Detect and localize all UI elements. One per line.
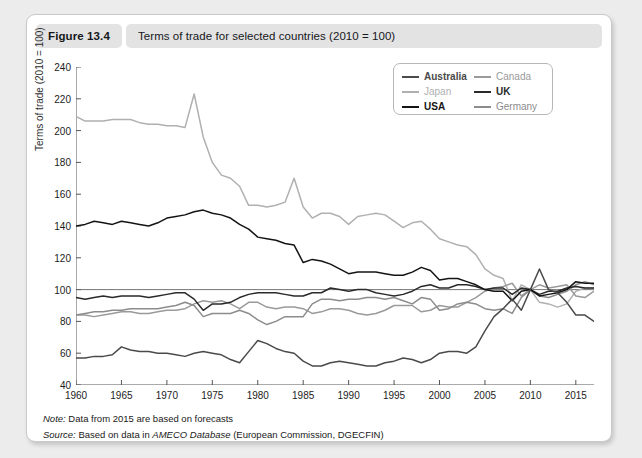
legend-swatch-icon [474, 76, 491, 78]
legend-label: Japan [424, 86, 451, 97]
figure-title-label: Terms of trade for selected countries (2… [126, 30, 395, 42]
figure-notes: Note: Data from 2015 are based on foreca… [43, 413, 603, 445]
source-database-name: AMECO Database [152, 429, 230, 440]
x-tick-label: 2000 [428, 390, 450, 401]
y-tick-label: 60 [60, 348, 71, 359]
y-tick-label: 200 [54, 125, 71, 136]
y-tick-label: 220 [54, 93, 71, 104]
legend-label: UK [496, 86, 510, 97]
x-tick-label: 1985 [292, 390, 314, 401]
x-tick-label: 2010 [519, 390, 541, 401]
figure-header: Figure 13.4 Terms of trade for selected … [36, 24, 602, 48]
legend-row: JapanUK [402, 84, 546, 99]
y-tick-label: 80 [60, 316, 71, 327]
chart-area: Terms of trade (2010 = 100) 406080100120… [36, 55, 602, 400]
figure-title-bar: Terms of trade for selected countries (2… [126, 24, 602, 48]
legend-row: USAGermany [402, 99, 546, 114]
legend-swatch-icon [402, 106, 419, 108]
figure-card: Figure 13.4 Terms of trade for selected … [26, 14, 612, 442]
legend-label: Australia [424, 71, 467, 82]
legend-label: Germany [496, 101, 537, 112]
x-tick-label: 1995 [383, 390, 405, 401]
x-tick-label: 1960 [65, 390, 87, 401]
figure-number-badge: Figure 13.4 [36, 24, 122, 48]
y-tick-label: 40 [60, 380, 71, 391]
source-text-pre: Based on data in [78, 429, 152, 440]
note-line: Note: Data from 2015 are based on foreca… [43, 413, 603, 424]
x-tick-label: 2015 [565, 390, 587, 401]
y-tick-label: 100 [54, 284, 71, 295]
legend-item-usa[interactable]: USA [402, 101, 474, 112]
legend-row: AustraliaCanada [402, 69, 546, 84]
y-tick-label: 160 [54, 189, 71, 200]
legend-item-uk[interactable]: UK [474, 86, 546, 97]
series-line-japan [76, 94, 594, 307]
series-line-australia [76, 269, 594, 366]
x-tick-label: 2005 [474, 390, 496, 401]
note-label: Note: [43, 413, 66, 424]
series-line-usa [76, 210, 594, 301]
x-tick-label: 1990 [338, 390, 360, 401]
source-label: Source: [43, 429, 76, 440]
y-tick-label: 240 [54, 62, 71, 73]
figure-number-label: Figure 13.4 [48, 30, 110, 42]
x-tick-label: 1965 [110, 390, 132, 401]
legend-swatch-icon [402, 91, 419, 93]
legend-label: USA [424, 101, 445, 112]
source-line: Source: Based on data in AMECO Database … [43, 429, 603, 440]
legend-item-canada[interactable]: Canada [474, 71, 546, 82]
legend-swatch-icon [474, 106, 491, 108]
y-axis-label: Terms of trade (2010 = 100) [34, 27, 45, 151]
y-tick-label: 140 [54, 221, 71, 232]
x-tick-label: 1970 [156, 390, 178, 401]
legend-swatch-icon [474, 91, 491, 93]
x-tick-label: 1975 [201, 390, 223, 401]
source-text-post: (European Commission, DGECFIN) [231, 429, 384, 440]
legend-item-japan[interactable]: Japan [402, 86, 474, 97]
y-tick-label: 180 [54, 157, 71, 168]
legend-label: Canada [496, 71, 531, 82]
legend-swatch-icon [402, 76, 419, 78]
page-background: Figure 13.4 Terms of trade for selected … [0, 0, 642, 458]
legend-item-australia[interactable]: Australia [402, 71, 474, 82]
x-tick-label: 1980 [247, 390, 269, 401]
note-text: Data from 2015 are based on forecasts [68, 413, 233, 424]
y-tick-label: 120 [54, 252, 71, 263]
legend-item-germany[interactable]: Germany [474, 101, 546, 112]
chart-legend: AustraliaCanadaJapanUKUSAGermany [393, 63, 553, 115]
